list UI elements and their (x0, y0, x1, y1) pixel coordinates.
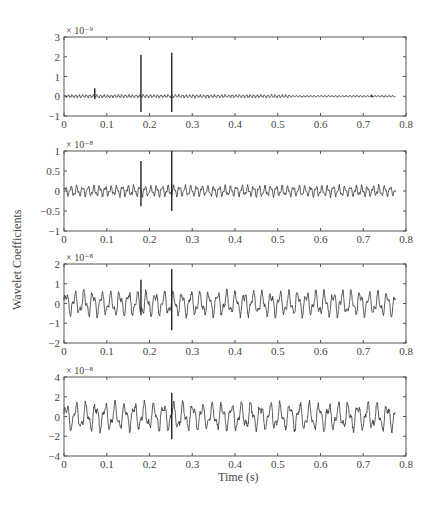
y-tick-label: −2 (48, 430, 60, 442)
x-tick-label: 0.7 (356, 345, 370, 357)
axes-frame (64, 37, 406, 116)
y-tick-label: 3 (55, 31, 61, 43)
x-tick-label: 0.4 (228, 458, 242, 470)
x-tick-label: 0.5 (271, 458, 285, 470)
x-tick-label: 0.4 (228, 233, 242, 245)
x-tick-label: 0.4 (228, 345, 242, 357)
x-tick-label: 0 (61, 345, 67, 357)
x-tick-label: 0.2 (143, 118, 157, 130)
subplot-1: 00.10.20.30.40.50.60.70.8−10123× 10⁻⁹ (48, 25, 413, 130)
x-tick-label: 0 (61, 233, 67, 245)
x-tick-label: 0.2 (143, 345, 157, 357)
x-tick-label: 0.1 (100, 458, 114, 470)
x-tick-label: 0.2 (143, 458, 157, 470)
y-tick-label: −1 (48, 317, 60, 329)
y-tick-label: 4 (55, 371, 61, 383)
y-tick-label: 2 (55, 258, 61, 270)
x-tick-label: 0.1 (100, 118, 114, 130)
x-tick-label: 0.7 (356, 458, 370, 470)
x-tick-label: 0.5 (271, 233, 285, 245)
signal-trace (64, 184, 395, 197)
x-tick-label: 0.3 (185, 345, 199, 357)
scale-exponent-label: × 10⁻⁸ (66, 139, 93, 150)
x-tick-label: 0.8 (399, 345, 413, 357)
x-tick-label: 0.3 (185, 458, 199, 470)
scale-exponent-label: × 10⁻⁸ (66, 252, 93, 263)
y-tick-label: −1 (48, 225, 60, 237)
x-tick-label: 0.3 (185, 118, 199, 130)
y-tick-label: 1 (55, 278, 61, 290)
subplot-2: 00.10.20.30.40.50.60.70.8−1−0.500.51× 10… (40, 139, 413, 245)
x-tick-label: 0.7 (356, 118, 370, 130)
figure: 00.10.20.30.40.50.60.70.8−10123× 10⁻⁹00.… (0, 0, 436, 506)
y-tick-label: 0.5 (46, 165, 60, 177)
signal-trace (64, 289, 395, 319)
y-tick-label: −0.5 (40, 205, 60, 217)
y-tick-label: −4 (48, 450, 60, 462)
signal-trace (64, 400, 395, 433)
y-tick-label: 0 (55, 411, 61, 423)
x-tick-label: 0.4 (228, 118, 242, 130)
x-tick-label: 0.3 (185, 233, 199, 245)
x-tick-label: 0.2 (143, 233, 157, 245)
scale-exponent-label: × 10⁻⁹ (66, 25, 93, 36)
x-tick-label: 0.1 (100, 345, 114, 357)
y-tick-label: 2 (55, 51, 61, 63)
x-tick-label: 0.8 (399, 458, 413, 470)
x-tick-label: 0.7 (356, 233, 370, 245)
y-axis-label: Wavelet Coefficients (10, 210, 25, 310)
x-tick-label: 0.8 (399, 118, 413, 130)
signal-trace (64, 94, 395, 98)
x-tick-label: 0 (61, 118, 67, 130)
y-tick-label: 1 (55, 71, 61, 83)
x-tick-label: 0.1 (100, 233, 114, 245)
y-tick-label: 2 (55, 391, 61, 403)
x-tick-label: 0.5 (271, 345, 285, 357)
scale-exponent-label: × 10⁻⁸ (66, 365, 93, 376)
x-tick-label: 0.6 (314, 458, 328, 470)
y-tick-label: 0 (55, 90, 61, 102)
y-tick-label: 0 (55, 185, 61, 197)
y-tick-label: −1 (48, 110, 60, 122)
y-tick-label: 1 (55, 145, 61, 157)
x-axis-label: Time (s) (218, 470, 259, 485)
x-tick-label: 0.6 (314, 118, 328, 130)
x-tick-label: 0.8 (399, 233, 413, 245)
subplot-4: 00.10.20.30.40.50.60.70.8−4−2024× 10⁻⁸ (48, 365, 413, 470)
subplots-canvas: 00.10.20.30.40.50.60.70.8−10123× 10⁻⁹00.… (0, 0, 436, 506)
x-tick-label: 0.5 (271, 118, 285, 130)
y-tick-label: −2 (48, 337, 60, 349)
x-tick-label: 0.6 (314, 233, 328, 245)
axes-frame (64, 264, 406, 343)
y-tick-label: 0 (55, 298, 61, 310)
x-tick-label: 0 (61, 458, 67, 470)
x-tick-label: 0.6 (314, 345, 328, 357)
subplot-3: 00.10.20.30.40.50.60.70.8−2−1012× 10⁻⁸ (48, 252, 413, 357)
